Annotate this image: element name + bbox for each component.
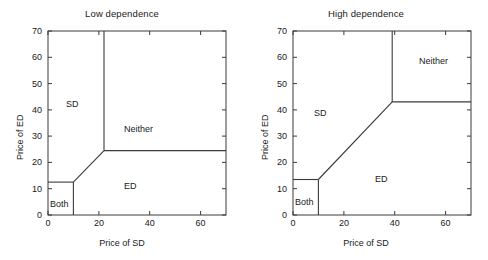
- y-tick-marks: [48, 31, 226, 215]
- y-axis-label: Price of ED: [260, 114, 270, 160]
- x-tick-label: 40: [383, 218, 407, 228]
- x-tick-label: 20: [332, 218, 356, 228]
- x-tick-label: 0: [281, 218, 305, 228]
- region-label-both: Both: [50, 199, 69, 209]
- x-axis-label: Price of SD: [0, 238, 244, 248]
- panel-high-dependence: High dependence: [244, 0, 488, 260]
- y-tick-label: 70: [16, 26, 42, 36]
- region-label-sd: SD: [66, 99, 79, 109]
- region-label-neither: Neither: [124, 124, 153, 134]
- x-axis-label: Price of SD: [244, 238, 488, 248]
- y-tick-label: 10: [16, 184, 42, 194]
- x-tick-label: 0: [36, 218, 60, 228]
- sd-ed-diagonal-line: [73, 151, 104, 183]
- y-axis-label: Price of ED: [15, 114, 25, 160]
- y-tick-label: 60: [16, 52, 42, 62]
- sd-ed-diagonal-line: [318, 102, 392, 180]
- figure-container: Low dependence: [0, 0, 488, 260]
- x-tick-label: 60: [434, 218, 458, 228]
- region-label-ed: ED: [124, 181, 137, 191]
- region-label-sd: SD: [314, 108, 327, 118]
- x-tick-label: 20: [87, 218, 111, 228]
- y-tick-label: 70: [261, 26, 287, 36]
- y-tick-label: 50: [261, 79, 287, 89]
- y-tick-label: 60: [261, 52, 287, 62]
- panel-low-dependence: Low dependence: [0, 0, 244, 260]
- x-tick-label: 60: [189, 218, 213, 228]
- y-tick-label: 50: [16, 79, 42, 89]
- region-label-ed: ED: [375, 174, 388, 184]
- x-tick-label: 40: [138, 218, 162, 228]
- region-label-both: Both: [295, 197, 314, 207]
- region-boundaries: [48, 31, 226, 215]
- region-label-neither: Neither: [419, 56, 448, 66]
- axes-frame: [48, 31, 226, 215]
- y-tick-label: 10: [261, 184, 287, 194]
